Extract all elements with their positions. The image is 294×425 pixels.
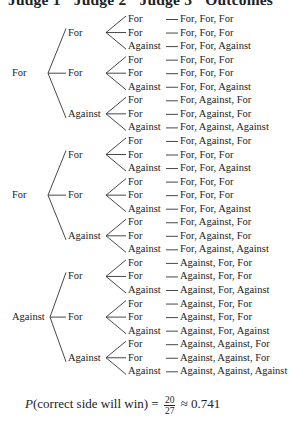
judge3-node: Against — [128, 81, 161, 93]
branch-line — [106, 57, 126, 74]
branch-line — [106, 179, 126, 196]
branch-line — [106, 276, 126, 293]
judge3-node: Against — [128, 203, 161, 215]
judge3-node: For — [128, 27, 143, 39]
judge2-node: For — [68, 189, 83, 201]
branch-line — [106, 195, 126, 212]
judge3-node: Against — [128, 325, 161, 337]
branch-line — [50, 317, 66, 362]
formula-event: (correct side will win) = — [33, 396, 159, 411]
branch-line — [48, 151, 66, 196]
judge3-node: For — [128, 270, 143, 282]
judge2-node: For — [68, 311, 83, 323]
outcome-text: For, For, Against — [180, 40, 251, 52]
judge3-node: Against — [128, 284, 161, 296]
judge3-node: Against — [128, 243, 161, 255]
outcome-text: For, For, Against — [180, 203, 251, 215]
branch-line — [106, 219, 126, 236]
outcome-text: For, For, For — [180, 176, 233, 188]
judge2-node: For — [68, 67, 83, 79]
judge3-node: For — [128, 189, 143, 201]
judge3-node: For — [128, 67, 143, 79]
judge1-node: For — [12, 67, 27, 79]
judge2-node: Against — [68, 230, 101, 242]
judge3-node: For — [128, 13, 143, 25]
judge2-node: Against — [68, 352, 101, 364]
outcome-text: For, Against, For — [180, 230, 251, 242]
judge2-node: For — [68, 27, 83, 39]
judge3-node: For — [128, 338, 143, 350]
outcome-text: For, For, Against — [180, 81, 251, 93]
branch-line — [106, 155, 126, 172]
outcome-text: Against, For, For — [180, 270, 252, 282]
judge3-node: For — [128, 149, 143, 161]
outcome-text: For, For, For — [180, 189, 233, 201]
branch-line — [50, 272, 66, 317]
outcome-text: For, For, For — [180, 67, 233, 79]
branch-line — [106, 341, 126, 358]
outcome-text: For, For, For — [180, 13, 233, 25]
judge3-node: For — [128, 54, 143, 66]
branch-line — [48, 73, 66, 118]
branch-line — [106, 138, 126, 155]
fraction-denominator: 27 — [164, 406, 176, 416]
outcome-text: Against, For, Against — [180, 284, 269, 296]
outcome-text: For, Against, For — [180, 94, 251, 106]
outcome-text: For, Against, For — [180, 216, 251, 228]
fraction-numerator: 20 — [164, 395, 176, 406]
outcome-text: Against, For, Against — [180, 325, 269, 337]
branch-line — [106, 16, 126, 33]
outcome-text: For, Against, For — [180, 108, 251, 120]
outcome-text: For, For, Against — [180, 162, 251, 174]
judge3-node: For — [128, 257, 143, 269]
outcome-text: Against, For, For — [180, 257, 252, 269]
judge3-node: For — [128, 176, 143, 188]
branch-line — [106, 73, 126, 90]
outcome-text: Against, Against, For — [180, 338, 270, 350]
branch-line — [106, 236, 126, 253]
outcome-text: For, For, For — [180, 27, 233, 39]
branch-line — [106, 97, 126, 114]
branch-line — [106, 33, 126, 50]
judge3-node: For — [128, 108, 143, 120]
outcome-text: Against, Against, Against — [180, 365, 287, 377]
judge3-node: For — [128, 216, 143, 228]
outcome-text: For, Against, For — [180, 135, 251, 147]
outcome-text: For, For, For — [180, 54, 233, 66]
outcome-text: Against, Against, For — [180, 352, 270, 364]
judge1-node: For — [12, 189, 27, 201]
judge3-node: Against — [128, 365, 161, 377]
probability-formula: P(correct side will win) = 20 27 ≈ 0.741 — [25, 395, 220, 416]
outcome-text: For, Against, Against — [180, 243, 269, 255]
branch-line — [48, 195, 66, 240]
judge3-node: Against — [128, 162, 161, 174]
outcome-text: Against, For, For — [180, 311, 252, 323]
judge3-node: For — [128, 298, 143, 310]
formula-p: P — [25, 396, 33, 411]
judge2-node: Against — [68, 108, 101, 120]
judge3-node: Against — [128, 40, 161, 52]
judge2-node: For — [68, 149, 83, 161]
fraction: 20 27 — [164, 395, 176, 416]
judge3-node: For — [128, 230, 143, 242]
judge3-node: For — [128, 94, 143, 106]
branch-line — [106, 114, 126, 131]
outcome-text: For, Against, Against — [180, 121, 269, 133]
judge1-node: Against — [12, 311, 45, 323]
judge3-node: For — [128, 135, 143, 147]
formula-approx: ≈ 0.741 — [181, 396, 221, 411]
judge3-node: For — [128, 311, 143, 323]
branch-line — [106, 260, 126, 277]
judge3-node: Against — [128, 121, 161, 133]
branch-line — [48, 29, 66, 74]
outcome-text: Against, For, For — [180, 298, 252, 310]
judge2-node: For — [68, 270, 83, 282]
branch-line — [106, 317, 126, 334]
judge3-node: For — [128, 352, 143, 364]
branch-line — [106, 301, 126, 318]
outcome-text: For, For, For — [180, 149, 233, 161]
branch-line — [106, 358, 126, 375]
